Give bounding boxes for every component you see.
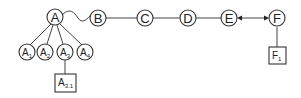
edge-a-a3: [57, 25, 63, 44]
node-e: E: [221, 10, 237, 26]
svg-text:B: B: [94, 11, 103, 26]
node-a3-1: A3.1: [55, 74, 76, 92]
svg-text:A: A: [51, 10, 60, 25]
node-b: B: [90, 10, 106, 26]
node-a3: A3: [57, 44, 73, 60]
svg-text:E: E: [225, 11, 234, 26]
arrowhead-left-icon: [237, 16, 242, 21]
node-d: D: [180, 10, 196, 26]
svg-text:D: D: [183, 11, 192, 26]
svg-text:C: C: [140, 11, 149, 26]
node-f: F: [269, 10, 285, 26]
node-f1: F1: [269, 47, 286, 64]
edge-a-a4: [60, 24, 82, 45]
node-c: C: [137, 10, 153, 26]
edge-a-b-wavy: [63, 11, 90, 21]
node-a: A: [47, 9, 63, 25]
node-a1: A1: [19, 44, 35, 60]
arrowhead-right-icon: [264, 16, 269, 21]
edge-a-a2: [47, 25, 53, 44]
diagram-canvas: A B C D E F A1 A2 A3 A4 A3.1: [0, 0, 301, 98]
node-a2: A2: [37, 44, 53, 60]
node-a4: A4: [77, 44, 93, 60]
svg-text:F: F: [273, 11, 281, 26]
